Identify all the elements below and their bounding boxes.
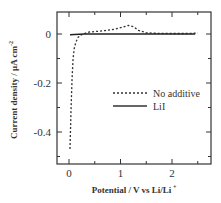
chart: 0120-0.2-0.4 Current density / μA cm-2 P… — [0, 0, 221, 203]
legend-label: LiI — [153, 101, 165, 112]
y-tick-label: 0 — [46, 28, 52, 40]
legend-label: No additive — [153, 88, 200, 99]
y-tick-label: -0.4 — [34, 126, 52, 138]
x-tick-label: 1 — [118, 167, 124, 179]
x-axis-label: Potential / V vs Li/Li + — [92, 184, 177, 195]
x-tick-label: 0 — [66, 167, 72, 179]
x-tick-label: 2 — [169, 167, 175, 179]
series-lii — [70, 34, 195, 35]
y-axis-label: Current density / μA cm-2 — [8, 41, 19, 139]
y-tick-label: -0.2 — [34, 77, 51, 89]
legend: No additiveLiI — [113, 88, 200, 112]
